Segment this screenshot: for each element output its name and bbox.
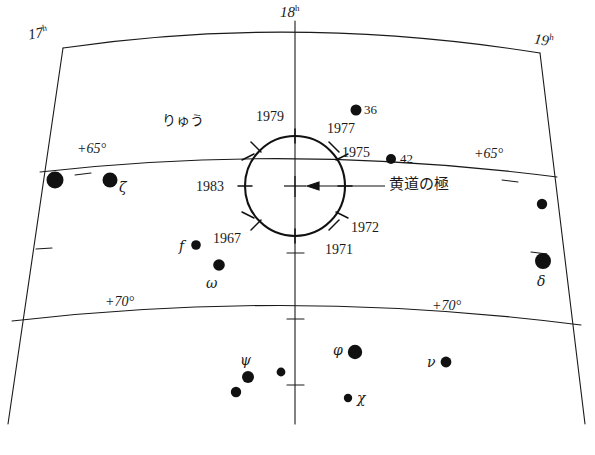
ra-line-17h (8, 48, 63, 424)
tick-19h-65 (502, 180, 518, 182)
ecliptic-pole-arrowhead (307, 182, 319, 190)
year-label-1977: 1977 (327, 122, 355, 136)
dec-arc-65 (40, 159, 557, 177)
constellation-label-draco: りゅう (162, 113, 204, 127)
star-marker-42 (386, 154, 396, 164)
year-label-1971: 1971 (325, 243, 353, 257)
star-chart-figure: 17h 18h 19h +65° +65° +70° +70° りゅう 黄道の極… (0, 0, 595, 455)
ra-label-18h: 18h (280, 4, 300, 20)
star-marker-unlabeled-center (277, 368, 286, 377)
sky-grid-svg (0, 0, 595, 455)
year-label-1975: 1975 (342, 146, 370, 160)
year-label-1979: 1979 (256, 110, 284, 124)
circle-tick-ul (251, 142, 261, 152)
ecliptic-pole-label: 黄道の極 (389, 177, 449, 192)
star-marker-omega (213, 259, 225, 271)
dec-label-70-right: +70° (432, 299, 461, 313)
circle-tick-1972 (336, 212, 348, 218)
dec-label-70-left: +70° (105, 295, 134, 309)
ra-line-19h (540, 53, 585, 424)
dec-label-65-left: +65° (77, 142, 106, 156)
dec-arc-70 (12, 305, 581, 325)
star-label-delta: δ (537, 274, 545, 288)
star-marker-f (191, 240, 201, 250)
star-marker-36 (351, 105, 362, 116)
tick-17h-65 (75, 173, 91, 175)
circle-tick-ll (251, 220, 261, 230)
ra-label-17h: 17h (27, 24, 49, 43)
year-label-1972: 1972 (351, 221, 379, 235)
star-label-nu: ν (427, 355, 436, 369)
tick-17h-mid (36, 248, 52, 249)
star-label-36: 36 (364, 103, 377, 116)
dec-arc-top (63, 32, 540, 53)
star-marker-phi (348, 345, 362, 359)
star-label-42: 42 (400, 152, 413, 165)
star-label-omega: ω (206, 276, 217, 290)
star-marker-delta (535, 253, 551, 269)
star-label-zeta: ζ (119, 180, 127, 194)
star-label-f: f (179, 239, 184, 253)
star-marker-unlabeled-right (537, 199, 547, 209)
dec-label-65-right: +65° (474, 147, 503, 161)
year-label-1983: 1983 (196, 180, 224, 194)
star-marker-chi (344, 394, 352, 402)
star-marker-psi (242, 371, 254, 383)
ra-label-19h: 19h (533, 31, 555, 50)
star-marker-nu (441, 357, 452, 368)
star-label-chi: χ (357, 391, 365, 405)
star-marker-unlabeled-left (47, 172, 64, 189)
star-marker-zeta (103, 173, 118, 188)
star-marker-psi-companion (231, 387, 241, 397)
star-label-psi: ψ (240, 353, 251, 367)
star-label-phi: φ (333, 343, 343, 357)
year-label-1967: 1967 (213, 232, 241, 246)
